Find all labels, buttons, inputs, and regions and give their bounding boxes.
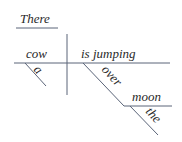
preposition-word: over — [99, 62, 126, 90]
sentence-diagram: There cow a is jumping over moon the — [0, 0, 182, 142]
object-word: moon — [132, 89, 161, 104]
object-modifier-group: the — [130, 104, 165, 135]
expletive-group: There — [16, 11, 58, 28]
predicate-word: is jumping — [81, 46, 136, 61]
subject-word: cow — [26, 46, 47, 61]
subject-modifier-group: a — [25, 62, 47, 86]
expletive-word: There — [20, 11, 50, 26]
object-group: moon — [124, 89, 172, 106]
preposition-group: over — [83, 62, 126, 106]
subject-modifier-word: a — [31, 62, 47, 77]
